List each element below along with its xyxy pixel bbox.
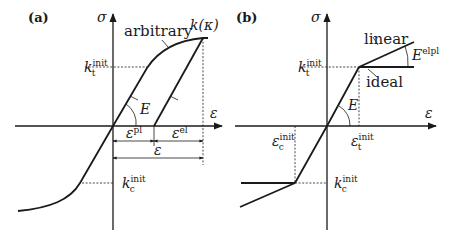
linear-label: linear <box>364 30 409 48</box>
parallel-mark <box>130 96 138 100</box>
kc-init-label: kinitc <box>334 174 358 194</box>
eps-pl-label: εpl <box>126 125 142 141</box>
ideal-label: ideal <box>366 73 403 91</box>
unloading-line <box>154 38 203 126</box>
modulus-label: E <box>139 101 150 117</box>
eps-t-init-label: εinitt <box>351 132 374 152</box>
arbitrary-label: arbitrary <box>124 22 193 40</box>
panel-a: (a) σ ε E εpl εel ε arbitrary k(κ) k <box>15 9 222 230</box>
epsilon-axis-label: ε <box>210 105 218 121</box>
parallel-mark <box>170 96 178 100</box>
panel-b: (b) σ ε linear ideal E Eelpl kinitt kini… <box>235 9 439 230</box>
kt-init-label: kinitt <box>298 58 322 78</box>
compression-linear-line <box>240 183 295 207</box>
eps-total-label: ε <box>154 142 162 158</box>
elpl-modulus-label: Eelpl <box>411 46 439 63</box>
epsilon-axis-label: ε <box>425 105 433 121</box>
panel-a-label: (a) <box>28 10 49 25</box>
panel-b-label: (b) <box>236 10 257 25</box>
sigma-axis-label: σ <box>97 9 107 25</box>
modulus-label: E <box>347 97 358 113</box>
peak-label: k(κ) <box>190 17 219 33</box>
eps-el-label: εel <box>172 125 188 141</box>
modulus-angle-arc <box>126 104 136 126</box>
elpl-angle-arc <box>405 46 408 67</box>
sigma-axis-label: σ <box>311 9 321 25</box>
arbitrary-pointer <box>162 40 168 47</box>
stress-strain-diagram: (a) σ ε E εpl εel ε arbitrary k(κ) k <box>0 0 452 242</box>
kc-init-label: kinitc <box>122 174 146 194</box>
eps-c-init-label: εinitc <box>272 132 295 152</box>
kt-init-label: kinitt <box>84 58 108 78</box>
